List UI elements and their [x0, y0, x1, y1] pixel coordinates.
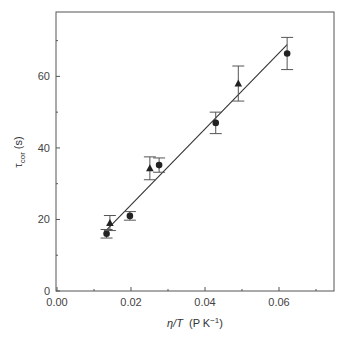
y-tick-label: 40 — [38, 142, 50, 154]
x-tick-label: 0.06 — [268, 296, 289, 308]
x-axis-ticks: 0.000.020.040.06 — [46, 287, 316, 308]
y-tick-label: 60 — [38, 70, 50, 82]
x-tick-label: 0.02 — [120, 296, 141, 308]
y-tick-label: 20 — [38, 213, 50, 225]
fit-line — [104, 45, 287, 233]
y-axis-label: τcor(s) — [12, 136, 27, 167]
plot-frame — [56, 12, 334, 291]
circle-data-point — [281, 37, 293, 69]
y-tick-label: 0 — [44, 285, 50, 297]
x-axis-label: η/T (P K−1) — [167, 316, 223, 329]
y-axis-ticks: 0204060 — [38, 41, 60, 297]
circle-data-point — [124, 212, 136, 221]
circle-data-point — [153, 158, 165, 172]
x-tick-label: 0.00 — [46, 296, 67, 308]
triangle-data-point — [232, 66, 244, 101]
scatter-chart: 0.000.020.040.06 0204060 η/T (P K−1) τco… — [0, 0, 345, 342]
triangle-data-point — [144, 157, 156, 180]
x-tick-label: 0.04 — [194, 296, 215, 308]
